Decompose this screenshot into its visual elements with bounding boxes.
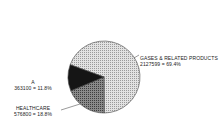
label-a: A 363100 = 11.8%	[11, 79, 55, 91]
label-healthcare-value: 576800 = 18.8%	[11, 111, 55, 117]
leader-line-gases	[134, 55, 139, 58]
label-a-value: 363100 = 11.8%	[11, 85, 55, 91]
leader-line-healthcare	[61, 104, 80, 110]
pie-slices	[68, 41, 140, 113]
label-gases: GASES & RELATED PRODUCTS 2127599 = 69.4%	[140, 55, 218, 67]
pie-chart	[0, 0, 224, 140]
label-healthcare: HEALTHCARE 576800 = 18.8%	[11, 105, 55, 117]
label-gases-value: 2127599 = 69.4%	[140, 61, 218, 67]
